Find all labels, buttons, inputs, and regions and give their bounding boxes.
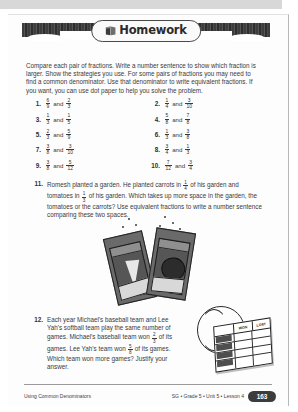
text-part: of his garden. Which takes up more space… bbox=[47, 193, 262, 218]
problem-row: 9. 3 8 and 5 12 10. 7 12 and 3 4 bbox=[26, 160, 264, 175]
connector-word: and bbox=[172, 131, 182, 138]
connector-word: and bbox=[172, 146, 182, 153]
fraction-left: 1 3 bbox=[165, 129, 170, 140]
fraction-left: 3 4 bbox=[165, 144, 170, 155]
problem-1: 1. 6 9 and 2 3 bbox=[26, 98, 145, 109]
problem-row: 3. 1 3 and 1 5 4. 5 8 and 7 8 bbox=[26, 113, 264, 128]
denominator: 3 bbox=[152, 338, 157, 344]
banner-title-text: Homework bbox=[119, 25, 187, 37]
fraction-right: 5 9 bbox=[66, 129, 71, 140]
denominator: 3 bbox=[46, 134, 51, 140]
packet-top-strip bbox=[158, 239, 189, 253]
connector-word: and bbox=[53, 162, 63, 169]
chart-lost-header: LOST bbox=[251, 319, 270, 331]
fraction-right: 7 8 bbox=[185, 113, 190, 124]
fraction-left: 1 3 bbox=[46, 113, 51, 124]
problem-number: 12. bbox=[26, 316, 47, 323]
connector-word: and bbox=[172, 100, 182, 107]
fraction-problem-grid: 1. 6 9 and 2 3 2. 1 4 and 3 10 bbox=[26, 98, 264, 175]
denominator: 10 bbox=[185, 103, 192, 109]
sparkle-dot bbox=[172, 222, 174, 224]
denominator: 3 bbox=[165, 134, 170, 140]
fraction-carrots: 1 4 bbox=[183, 180, 188, 191]
fraction-left: 5 8 bbox=[165, 113, 170, 124]
fraction-left: 6 9 bbox=[46, 98, 51, 109]
word-problem-11: 11. Romesh planted a garden. He planted … bbox=[26, 180, 264, 219]
problem-row: 1. 6 9 and 2 3 2. 1 4 and 3 10 bbox=[26, 98, 264, 113]
denominator: 8 bbox=[46, 165, 51, 171]
chart-team-name bbox=[217, 359, 233, 368]
fraction-right: 3 10 bbox=[66, 144, 73, 155]
footer-right-group: SG • Grade 5 • Unit 5 • Lesson 4 163 bbox=[172, 391, 276, 402]
connector-word: and bbox=[172, 116, 182, 123]
word-problem-12: 12. Each year Michael's baseball team an… bbox=[26, 316, 176, 372]
scan-top-strip bbox=[0, 0, 298, 13]
problem-number: 7. bbox=[26, 146, 45, 153]
denominator: 4 bbox=[188, 165, 193, 171]
problem-number: 1. bbox=[26, 100, 45, 107]
denominator: 10 bbox=[66, 149, 73, 155]
fraction-right: 1 3 bbox=[185, 144, 190, 155]
tomato-seed-packet bbox=[146, 227, 196, 300]
sparkle-dot bbox=[159, 225, 161, 227]
connector-word: and bbox=[53, 131, 63, 138]
problem-number: 3. bbox=[26, 116, 45, 123]
fraction-right: 3 8 bbox=[185, 129, 190, 140]
fraction-left: 2 3 bbox=[46, 129, 51, 140]
denominator: 4 bbox=[165, 149, 170, 155]
problem-number: 11. bbox=[26, 180, 47, 187]
problem-8: 8. 3 4 and 1 3 bbox=[145, 144, 264, 155]
problem-3: 3. 1 3 and 1 5 bbox=[26, 113, 145, 124]
problem-5: 5. 2 3 and 5 9 bbox=[26, 129, 145, 140]
fraction-softball: 5 8 bbox=[128, 344, 133, 355]
problem-2: 2. 1 4 and 3 10 bbox=[145, 98, 264, 109]
connector-word: and bbox=[53, 146, 63, 153]
denominator: 8 bbox=[185, 119, 190, 125]
denominator: 5 bbox=[66, 119, 71, 125]
fraction-right: 5 12 bbox=[66, 160, 73, 171]
chart-col-divider bbox=[251, 330, 254, 365]
denominator: 9 bbox=[66, 134, 71, 140]
denominator: 12 bbox=[66, 165, 73, 171]
sparkle-dot bbox=[164, 216, 166, 218]
fraction-tomatoes: 1 3 bbox=[82, 191, 87, 202]
denominator: 9 bbox=[46, 103, 51, 109]
homework-title-pill: Homework bbox=[91, 20, 201, 42]
baseball-standings-illustration: WON LOST bbox=[196, 306, 278, 376]
problem-row: 5. 2 3 and 5 9 6. 1 3 and 3 8 bbox=[26, 129, 264, 144]
problem-number: 6. bbox=[145, 131, 164, 138]
denominator: 8 bbox=[185, 134, 190, 140]
book-icon bbox=[105, 26, 116, 36]
problem-number: 10. bbox=[145, 162, 164, 169]
problem-9: 9. 3 8 and 5 12 bbox=[26, 160, 145, 171]
sparkle-dot bbox=[122, 226, 124, 228]
text-part: Romesh planted a garden. He planted carr… bbox=[47, 181, 181, 188]
denominator: 12 bbox=[165, 165, 172, 171]
fraction-left: 1 4 bbox=[165, 98, 170, 109]
fraction-baseball: 2 3 bbox=[152, 332, 157, 343]
instructions-paragraph: Compare each pair of fractions. Write a … bbox=[26, 62, 256, 94]
problem-6: 6. 1 3 and 3 8 bbox=[145, 129, 264, 140]
problem-11-text: Romesh planted a garden. He planted carr… bbox=[47, 180, 264, 219]
fraction-left: 3 8 bbox=[46, 160, 51, 171]
footer-lesson-title: Using Common Denominators bbox=[24, 393, 91, 399]
fraction-left: 3 8 bbox=[46, 144, 51, 155]
sparkle-dot bbox=[135, 224, 137, 226]
sparkle-dot bbox=[179, 228, 181, 230]
fraction-right: 1 5 bbox=[66, 113, 71, 124]
seed-packets-illustration bbox=[104, 216, 200, 308]
problem-number: 2. bbox=[145, 100, 164, 107]
homework-banner: Homework bbox=[22, 20, 270, 41]
packet-label bbox=[150, 276, 184, 294]
problem-row: 7. 3 8 and 3 10 8. 3 4 and 1 3 bbox=[26, 144, 264, 159]
problem-12-text: Each year Michael's baseball team and Le… bbox=[47, 316, 176, 372]
denominator: 8 bbox=[165, 119, 170, 125]
problem-number: 9. bbox=[26, 162, 45, 169]
scan-gray-edge bbox=[0, 0, 282, 9]
problem-number: 4. bbox=[145, 116, 164, 123]
footer-metadata: SG • Grade 5 • Unit 5 • Lesson 4 bbox=[172, 393, 244, 399]
fraction-right: 3 4 bbox=[188, 160, 193, 171]
page-number-badge: 163 bbox=[248, 391, 276, 402]
denominator: 4 bbox=[183, 185, 188, 191]
denominator: 4 bbox=[165, 103, 170, 109]
